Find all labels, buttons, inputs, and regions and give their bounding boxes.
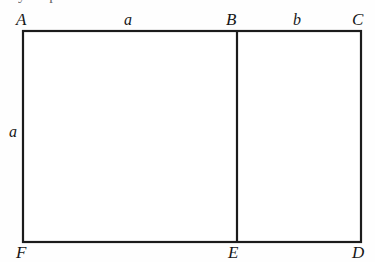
vertex-label-a: A: [16, 11, 26, 28]
vertex-label-e: E: [228, 244, 238, 261]
vertex-label-f: F: [16, 244, 26, 261]
vertex-label-b: B: [226, 11, 236, 28]
rectangle-diagram: [0, 0, 375, 262]
side-label-left-a: a: [9, 124, 17, 140]
vertex-label-d: D: [352, 244, 364, 261]
vertex-label-c: C: [352, 11, 363, 28]
side-label-top-right-b: b: [293, 12, 301, 28]
diagram-svg: [0, 0, 375, 262]
outer-rectangle: [23, 31, 361, 242]
figure-canvas: y p A B C F E D a b a: [0, 0, 375, 262]
side-label-top-left-a: a: [124, 12, 132, 28]
